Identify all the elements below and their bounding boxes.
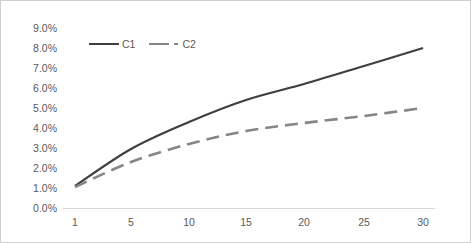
legend-swatch-solid-line-icon bbox=[89, 39, 119, 49]
y-tick-label: 0.0% bbox=[9, 203, 57, 214]
series-line-c2 bbox=[75, 108, 423, 187]
y-tick-label: 9.0% bbox=[9, 23, 57, 34]
x-tick-label: 20 bbox=[284, 217, 324, 228]
chart-container: 0.0%1.0%2.0%3.0%4.0%5.0%6.0%7.0%8.0%9.0%… bbox=[0, 0, 471, 243]
x-tick-label: 5 bbox=[111, 217, 151, 228]
x-tick-label: 10 bbox=[169, 217, 209, 228]
x-tick-label: 25 bbox=[344, 217, 384, 228]
x-tick-label: 30 bbox=[403, 217, 443, 228]
y-tick-label: 3.0% bbox=[9, 143, 57, 154]
legend-label: C2 bbox=[182, 39, 195, 50]
axis-baseline bbox=[63, 208, 435, 209]
y-tick-label: 7.0% bbox=[9, 63, 57, 74]
y-tick-label: 5.0% bbox=[9, 103, 57, 114]
x-tick-label: 1 bbox=[55, 217, 95, 228]
legend-swatch-dashed-line-icon bbox=[149, 39, 179, 49]
y-axis: 0.0%1.0%2.0%3.0%4.0%5.0%6.0%7.0%8.0%9.0% bbox=[9, 1, 57, 243]
plot-area bbox=[63, 28, 435, 208]
y-tick-label: 2.0% bbox=[9, 163, 57, 174]
legend-entry-c2[interactable]: C2 bbox=[149, 39, 195, 50]
chart-legend: C1C2 bbox=[89, 37, 210, 51]
legend-entry-c1[interactable]: C1 bbox=[89, 39, 135, 50]
series-line-c1 bbox=[75, 48, 423, 186]
legend-label: C1 bbox=[122, 39, 135, 50]
y-tick-label: 8.0% bbox=[9, 43, 57, 54]
x-tick-label: 15 bbox=[226, 217, 266, 228]
y-tick-label: 4.0% bbox=[9, 123, 57, 134]
series-layer bbox=[63, 28, 435, 208]
y-tick-label: 1.0% bbox=[9, 183, 57, 194]
y-tick-label: 6.0% bbox=[9, 83, 57, 94]
